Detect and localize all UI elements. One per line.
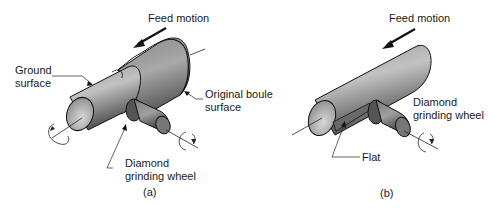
workpiece-cylinder-b	[304, 45, 431, 139]
feed-motion-label-b: Feed motion	[389, 12, 450, 25]
figure-a	[49, 28, 205, 168]
ground-surface-label-line2: surface	[15, 77, 51, 90]
diamond-wheel-label-a-line2: grinding wheel	[125, 170, 196, 183]
diamond-wheel-label-a-line1: Diamond	[125, 157, 169, 170]
diamond-wheel-leader-a	[107, 128, 125, 168]
diamond-wheel-label-b-line1: Diamond	[413, 96, 457, 109]
caption-a: (a)	[143, 186, 156, 198]
feed-motion-label-a: Feed motion	[148, 12, 209, 25]
figure-b	[292, 29, 438, 157]
ground-surface-leader	[52, 76, 92, 84]
original-boule-leader	[187, 93, 203, 99]
original-boule-label-line1: Original boule	[205, 88, 273, 101]
wheel-rotation-arrow-icon-b	[418, 133, 426, 152]
boule-axis-line	[190, 49, 205, 55]
caption-b: (b)	[380, 187, 393, 199]
figure: Feed motion Ground surface Original boul…	[0, 0, 495, 208]
original-boule-label-line2: surface	[205, 101, 241, 114]
diamond-grinding-wheel-b	[368, 100, 413, 139]
flat-label: Flat	[362, 151, 380, 164]
diamond-wheel-label-b-line2: grinding wheel	[413, 109, 484, 122]
ground-surface-label-line1: Ground	[15, 64, 52, 77]
